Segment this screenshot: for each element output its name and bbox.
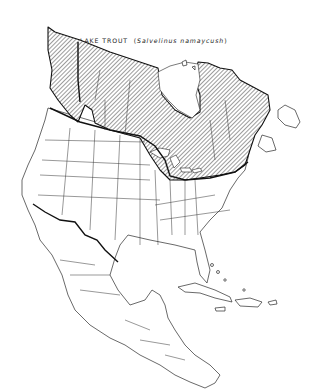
north-america-map	[0, 0, 321, 391]
caribbean-islands	[178, 264, 277, 312]
